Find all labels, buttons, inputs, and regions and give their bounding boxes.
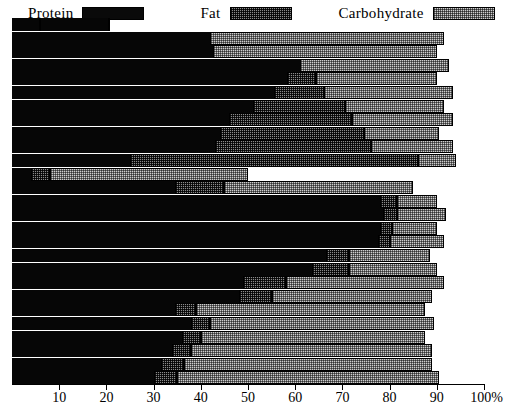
bar-segment-protein (12, 263, 312, 276)
bar-segment-fat (274, 86, 324, 99)
bar-segment-carbohydrate (177, 371, 439, 384)
bar-segment-protein (12, 344, 172, 357)
bar-segment-protein (12, 100, 253, 113)
bar-segment-fat (31, 168, 50, 181)
bar-segment-carbohydrate (349, 249, 429, 262)
bar-segment-fat (378, 235, 390, 248)
bar-segment-carbohydrate (196, 303, 425, 316)
bar-segment-fat (312, 263, 350, 276)
bar-segment-carbohydrate (286, 276, 444, 289)
bar-segment-protein (12, 113, 229, 126)
bar-segment-fat (172, 344, 191, 357)
bar-segment-protein (12, 59, 307, 72)
axis-tick-label: 70 (335, 391, 349, 405)
axis-tick-label: 60 (288, 391, 302, 405)
axis-tick-label: 10 (52, 391, 66, 405)
bar-segment-fat (175, 181, 225, 194)
bar-segment-protein (12, 290, 239, 303)
bar-segment-carbohydrate (316, 72, 436, 85)
plot-area (0, 18, 506, 386)
bar-segment-carbohydrate (371, 140, 454, 153)
bar-segment-protein (12, 208, 383, 221)
bar-segment-carbohydrate (364, 127, 440, 140)
axis-tick-label: 20 (99, 391, 113, 405)
bar-segment-fat (287, 72, 316, 85)
bar-segment-protein (12, 317, 191, 330)
bar-segment-carbohydrate (50, 168, 248, 181)
bar-segment-protein (12, 276, 243, 289)
bar-segment-carbohydrate (39, 18, 41, 31)
bar-segment-carbohydrate (210, 32, 444, 45)
x-axis: 102030405060708090100% (0, 384, 506, 411)
bar-segment-carbohydrate (213, 45, 437, 58)
bar-segment-protein (12, 86, 274, 99)
bar-segment-carbohydrate (300, 59, 449, 72)
bar-segment-carbohydrate (352, 113, 453, 126)
bar-segment-protein (12, 331, 182, 344)
bar-segment-carbohydrate (390, 235, 444, 248)
bar-segment-protein (12, 303, 175, 316)
bar-segment-carbohydrate (397, 208, 447, 221)
bar-segment-protein (12, 371, 154, 384)
bar-segment-protein (12, 235, 378, 248)
bar-segment-fat (253, 100, 345, 113)
bar-segment-fat (380, 222, 392, 235)
bar-segment-protein (12, 249, 326, 262)
bar-segment-fat (220, 127, 364, 140)
bar-segment-carbohydrate (345, 100, 444, 113)
bar-segment-carbohydrate (201, 331, 425, 344)
bar-segment-carbohydrate (349, 263, 436, 276)
axis-tick-label: 50 (241, 391, 255, 405)
bar-segment-fat (243, 276, 285, 289)
bar-segment-carbohydrate (392, 222, 437, 235)
stacked-bar-chart-figure: Protein Fat Carbohydrate 102030405060708… (0, 0, 506, 411)
bar-segment-protein (12, 140, 215, 153)
bar-segment-fat (108, 18, 110, 31)
bar-segment-fat (326, 249, 350, 262)
axis-tick-label: 30 (147, 391, 161, 405)
bar-segment-carbohydrate (184, 358, 432, 371)
bar-segment-carbohydrate (224, 181, 413, 194)
bar-segment-protein (12, 154, 130, 167)
bar-segment-fat (154, 371, 178, 384)
bar-segment-fat (215, 140, 371, 153)
bar-segment-fat (191, 317, 210, 330)
bar-segment-fat (380, 195, 397, 208)
bar-segment-protein (12, 195, 380, 208)
bar-segment-protein (12, 18, 108, 31)
bar-segment-fat (239, 290, 272, 303)
bar-segment-fat (229, 113, 352, 126)
axis-tick-label: 100% (470, 391, 503, 405)
bar-segment-carbohydrate (210, 317, 434, 330)
bar-segment-protein (12, 222, 380, 235)
bar-segment-fat (182, 331, 201, 344)
bar-segment-protein (12, 127, 220, 140)
bar-segment-protein (12, 72, 287, 85)
bar-segment-carbohydrate (191, 344, 432, 357)
bar-segment-carbohydrate (418, 154, 456, 167)
axis-tick-label: 80 (383, 391, 397, 405)
bar-segment-fat (383, 208, 397, 221)
axis-tick-label: 40 (194, 391, 208, 405)
bar-segment-fat (161, 358, 185, 371)
bar-segment-fat (175, 303, 196, 316)
bar-segment-carbohydrate (397, 195, 437, 208)
bar-segment-protein (12, 181, 175, 194)
bar-segment-protein (12, 358, 161, 371)
bar-segment-fat (130, 154, 418, 167)
axis-tick-label: 90 (430, 391, 444, 405)
bar-segment-carbohydrate (324, 86, 454, 99)
bar-segment-protein (12, 168, 31, 181)
bar-segment-carbohydrate (272, 290, 432, 303)
